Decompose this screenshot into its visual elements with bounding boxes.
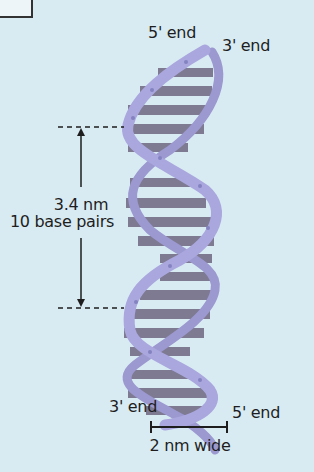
label-pitch-bases: 10 base pairs	[0, 213, 124, 231]
label-top-5-end: 5' end	[148, 24, 196, 42]
label-bottom-3-end: 3' end	[109, 398, 157, 416]
arrow-down-icon	[77, 299, 85, 307]
label-width: 2 nm wide	[140, 437, 240, 455]
label-bottom-5-end: 5' end	[232, 404, 280, 422]
label-top-3-end: 3' end	[222, 37, 270, 55]
arrow-up-icon	[77, 128, 85, 136]
